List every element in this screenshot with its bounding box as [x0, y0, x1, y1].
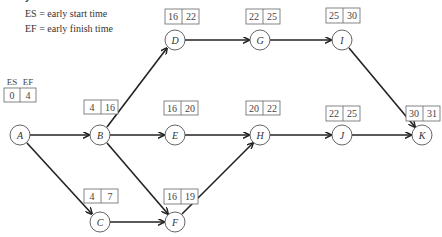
svg-text:30: 30	[347, 10, 357, 21]
svg-text:25: 25	[347, 108, 357, 119]
node-k: K	[412, 125, 432, 145]
svg-text:25: 25	[329, 10, 339, 21]
node-a: A	[10, 125, 30, 145]
node-j: J	[332, 125, 352, 145]
svg-text:4: 4	[90, 191, 95, 202]
box-a: 04	[4, 88, 36, 102]
svg-text:H: H	[255, 130, 264, 141]
box-d: 1622	[165, 9, 199, 24]
node-f: F	[165, 212, 185, 232]
node-e: E	[165, 125, 185, 145]
box-b: 416	[84, 100, 118, 114]
box-i: 2530	[326, 8, 360, 23]
box-j: 2225	[326, 106, 360, 121]
node-d: D	[165, 30, 185, 50]
svg-text:F: F	[171, 217, 179, 228]
node-i: I	[332, 30, 352, 50]
svg-text:J: J	[340, 130, 345, 141]
svg-text:31: 31	[427, 108, 437, 119]
svg-text:30: 30	[409, 108, 419, 119]
svg-text:I: I	[339, 35, 344, 46]
edge-b-d	[107, 48, 167, 127]
svg-text:20: 20	[185, 103, 195, 114]
svg-text:16: 16	[168, 11, 178, 22]
svg-text:22: 22	[186, 11, 196, 22]
svg-text:25: 25	[267, 11, 277, 22]
svg-text:D: D	[170, 35, 179, 46]
svg-text:4: 4	[90, 102, 95, 113]
box-e: 1620	[164, 101, 198, 115]
svg-text:7: 7	[108, 191, 113, 202]
svg-text:A: A	[16, 130, 24, 141]
svg-text:22: 22	[329, 108, 339, 119]
node-h: H	[250, 125, 270, 145]
svg-text:K: K	[418, 130, 427, 141]
svg-text:22: 22	[267, 103, 277, 114]
svg-text:B: B	[97, 130, 103, 141]
svg-text:C: C	[97, 217, 104, 228]
svg-text:22: 22	[249, 11, 259, 22]
svg-text:16: 16	[105, 102, 115, 113]
header-ef: EF	[23, 77, 34, 87]
node-c: C	[90, 212, 110, 232]
svg-text:4: 4	[26, 90, 31, 101]
svg-text:20: 20	[249, 103, 259, 114]
network-diagram: ES EF 04 416 47 1622 1620 1619 2225 2022…	[0, 0, 442, 237]
node-g: G	[250, 30, 270, 50]
box-f: 1619	[164, 189, 198, 204]
box-k: 3031	[406, 106, 440, 121]
svg-text:16: 16	[167, 191, 177, 202]
svg-text:E: E	[171, 130, 178, 141]
node-b: B	[90, 125, 110, 145]
svg-text:0: 0	[10, 90, 15, 101]
edge-a-c	[27, 143, 92, 214]
svg-text:19: 19	[185, 191, 195, 202]
box-h: 2022	[246, 101, 280, 115]
box-c: 47	[84, 189, 118, 203]
svg-text:16: 16	[167, 103, 177, 114]
svg-text:G: G	[256, 35, 263, 46]
header-es: ES	[7, 77, 18, 87]
box-g: 2225	[246, 9, 280, 24]
